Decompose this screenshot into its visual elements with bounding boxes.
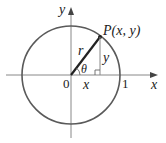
x-axis-label: x xyxy=(150,77,158,92)
point-label: P(x, y) xyxy=(102,23,141,39)
unit-circle-diagram: y x 0 1 P(x, y) r y x θ xyxy=(0,0,166,143)
radius-label: r xyxy=(78,43,84,58)
one-label: 1 xyxy=(122,76,129,91)
y-axis-label: y xyxy=(57,2,66,17)
origin-label: 0 xyxy=(63,76,70,91)
y-axis-arrow-icon xyxy=(68,7,74,15)
right-angle-marker xyxy=(95,70,100,75)
angle-arc xyxy=(77,68,81,75)
vertical-leg-label: y xyxy=(101,50,110,65)
horizontal-leg-label: x xyxy=(82,77,90,92)
theta-label: θ xyxy=(81,62,87,76)
